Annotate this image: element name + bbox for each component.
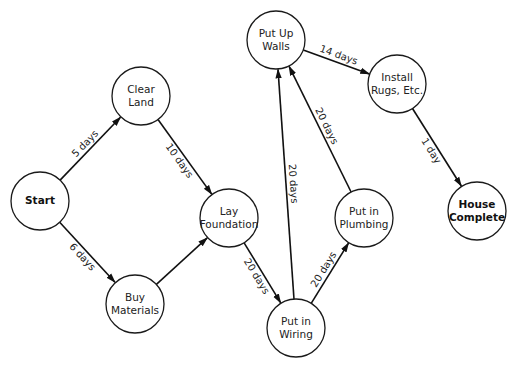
edge-duration-label: 6 days — [67, 241, 98, 273]
edge-start-to-buy-materials: 6 days — [60, 222, 115, 282]
node-label: Land — [128, 96, 154, 108]
nodes-layer: StartClearLandBuyMaterialsLayFoundationP… — [11, 11, 506, 357]
node-put-in-wiring: Put inWiring — [267, 299, 325, 357]
edge-arrow — [156, 238, 207, 285]
node-label: Lay — [220, 205, 239, 217]
edge-install-rugs-to-house-complete: 1 day — [413, 109, 462, 187]
node-put-up-walls: Put UpWalls — [247, 11, 305, 69]
node-put-in-plumbing: Put inPlumbing — [335, 189, 393, 247]
node-clear-land: ClearLand — [112, 67, 170, 125]
edge-put-in-wiring-to-put-in-plumbing: 20 days — [308, 243, 348, 303]
edge-duration-label: 10 days — [164, 141, 196, 179]
node-label: Foundation — [200, 218, 259, 230]
node-label: Install — [381, 71, 413, 83]
house-construction-network-diagram: 5 days6 days10 days20 days20 days20 days… — [0, 0, 512, 372]
node-label: Complete — [449, 211, 505, 223]
node-label: Put in — [349, 205, 379, 217]
node-buy-materials: BuyMaterials — [106, 275, 164, 333]
edge-put-in-wiring-to-put-up-walls: 20 days — [278, 69, 300, 299]
node-label: Materials — [111, 304, 159, 316]
node-label: Put in — [281, 315, 311, 327]
node-label: Walls — [262, 40, 289, 52]
node-label: Clear — [127, 83, 155, 95]
node-label: Put Up — [259, 27, 294, 39]
node-label: Wiring — [279, 328, 313, 340]
edge-clear-land-to-lay-foundation: 10 days — [158, 120, 212, 195]
edge-duration-label: 20 days — [287, 164, 301, 204]
edge-buy-materials-to-lay-foundation — [156, 238, 207, 285]
edge-arrow — [60, 222, 115, 282]
node-start: Start — [11, 172, 69, 230]
node-install-rugs: InstallRugs, Etc. — [368, 55, 426, 113]
edge-start-to-clear-land: 5 days — [60, 117, 120, 180]
node-house-complete: HouseComplete — [448, 182, 506, 240]
edge-arrow — [413, 109, 462, 187]
edge-put-up-walls-to-install-rugs: 14 days — [303, 43, 369, 74]
node-label: House — [459, 198, 496, 210]
node-label: Buy — [125, 291, 145, 303]
node-label: Plumbing — [339, 218, 388, 230]
node-label: Rugs, Etc. — [371, 84, 423, 96]
edge-arrow — [60, 117, 120, 180]
edge-lay-foundation-to-put-in-wiring: 20 days — [242, 243, 281, 303]
node-lay-foundation: LayFoundation — [200, 189, 259, 247]
node-label: Start — [25, 194, 55, 206]
edge-duration-label: 20 days — [313, 106, 340, 146]
